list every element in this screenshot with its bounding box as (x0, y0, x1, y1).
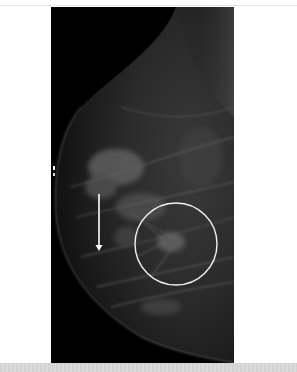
bottom-bar (0, 363, 297, 372)
mammogram-svg (51, 7, 234, 363)
mammogram-image (51, 7, 234, 363)
skin-marker (53, 166, 55, 170)
top-divider (0, 5, 297, 6)
